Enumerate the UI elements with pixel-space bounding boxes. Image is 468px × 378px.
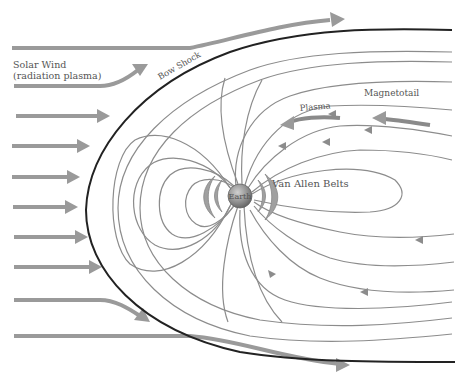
- solar-wind-arrow-straight: [14, 230, 88, 244]
- earth: Earth: [228, 184, 252, 208]
- magnetotail-label: Magnetotail: [364, 88, 419, 98]
- magnetosphere-diagram: Earth Solar Wind (radiation plasma) Bow …: [0, 0, 468, 378]
- solar-wind-arrow-straight: [13, 200, 78, 214]
- solar-wind-sublabel: (radiation plasma): [13, 70, 101, 81]
- solar-wind-arrow-straight: [14, 260, 102, 274]
- solar-wind-arrow-straight: [12, 139, 90, 153]
- solar-wind-arrow-straight: [16, 109, 110, 123]
- solar-wind-arrow-bottom-deflected: [14, 336, 350, 372]
- earth-label: Earth: [229, 192, 252, 201]
- solar-wind-label: Solar Wind: [13, 59, 66, 70]
- solar-wind-arrow-top-deflected: [12, 12, 345, 48]
- solar-wind-arrow-lower-deflected: [14, 300, 150, 322]
- plasma-label: Plasma: [299, 100, 331, 113]
- van-allen-belts-label: Van Allen Belts: [271, 178, 349, 189]
- solar-wind-arrow-straight: [12, 170, 80, 184]
- field-direction-arrows: [268, 110, 423, 296]
